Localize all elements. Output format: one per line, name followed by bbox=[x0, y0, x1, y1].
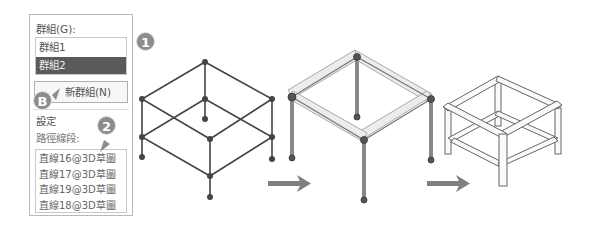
arrow-right-icon bbox=[268, 175, 311, 192]
wireframe-nodes bbox=[139, 59, 275, 200]
arrow-right-icon bbox=[427, 175, 470, 192]
finished-frame bbox=[443, 76, 562, 186]
weldment-diagram bbox=[0, 0, 594, 230]
wireframe-sketch bbox=[142, 62, 272, 197]
structure-members bbox=[288, 50, 435, 203]
